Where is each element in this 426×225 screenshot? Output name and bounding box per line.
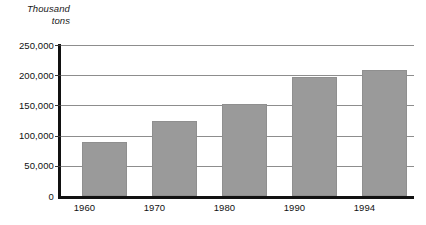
bar-1980 [222,104,267,196]
y-tick-mark-50000 [55,166,61,167]
gridline-250000 [61,45,414,46]
x-axis-line [58,196,414,199]
y-tick-label-50000: 50,000 [0,160,54,171]
y-axis-line [58,44,61,198]
x-tick-label-1990: 1990 [272,202,317,213]
y-tick-label-200000: 200,000 [0,70,54,81]
y-axis-title-line-1: Thousand [0,3,70,15]
bar-1994 [362,70,407,196]
y-tick-label-0: 0 [0,191,54,202]
y-tick-mark-200000 [55,75,61,76]
bar-chart-figure: Thousand tons 250,000 200,000 150,000 10… [0,0,426,225]
bar-1960 [82,142,127,196]
y-tick-label-100000: 100,000 [0,130,54,141]
y-tick-mark-250000 [55,45,61,46]
bar-1970 [152,121,197,196]
y-axis-title-line-2: tons [0,15,70,27]
y-tick-label-250000: 250,000 [0,40,54,51]
y-tick-label-150000: 150,000 [0,100,54,111]
x-tick-label-1980: 1980 [202,202,247,213]
y-tick-mark-150000 [55,105,61,106]
x-tick-label-1960: 1960 [62,202,107,213]
x-tick-label-1970: 1970 [132,202,177,213]
y-tick-mark-100000 [55,136,61,137]
x-tick-label-1994: 1994 [342,202,387,213]
plot-area [61,45,414,196]
y-axis-title: Thousand tons [0,3,70,26]
bar-1990 [292,77,337,196]
